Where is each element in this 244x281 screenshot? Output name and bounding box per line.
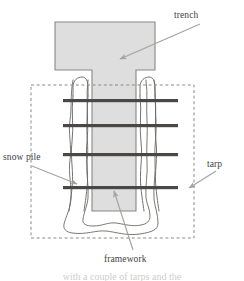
snow-pile-arrow [32, 166, 77, 184]
framework-bar-2 [63, 124, 178, 127]
label-framework: framework [104, 254, 147, 264]
post-hook-right [140, 77, 155, 96]
label-snow-pile: snow pile [3, 152, 41, 162]
label-trench: trench [174, 10, 198, 20]
diagram-canvas [0, 0, 244, 281]
framework-bar-1 [63, 99, 178, 102]
framework-bar-4 [63, 186, 178, 189]
post-hook-left [73, 77, 88, 96]
clipped-caption-line: with a couple of tarps and the [0, 272, 244, 281]
tarp-arrow [189, 171, 216, 188]
label-tarp: tarp [207, 159, 222, 169]
diagram-figure: trench snow pile tarp framework with a c… [0, 0, 244, 281]
framework-bar-3 [63, 153, 178, 156]
